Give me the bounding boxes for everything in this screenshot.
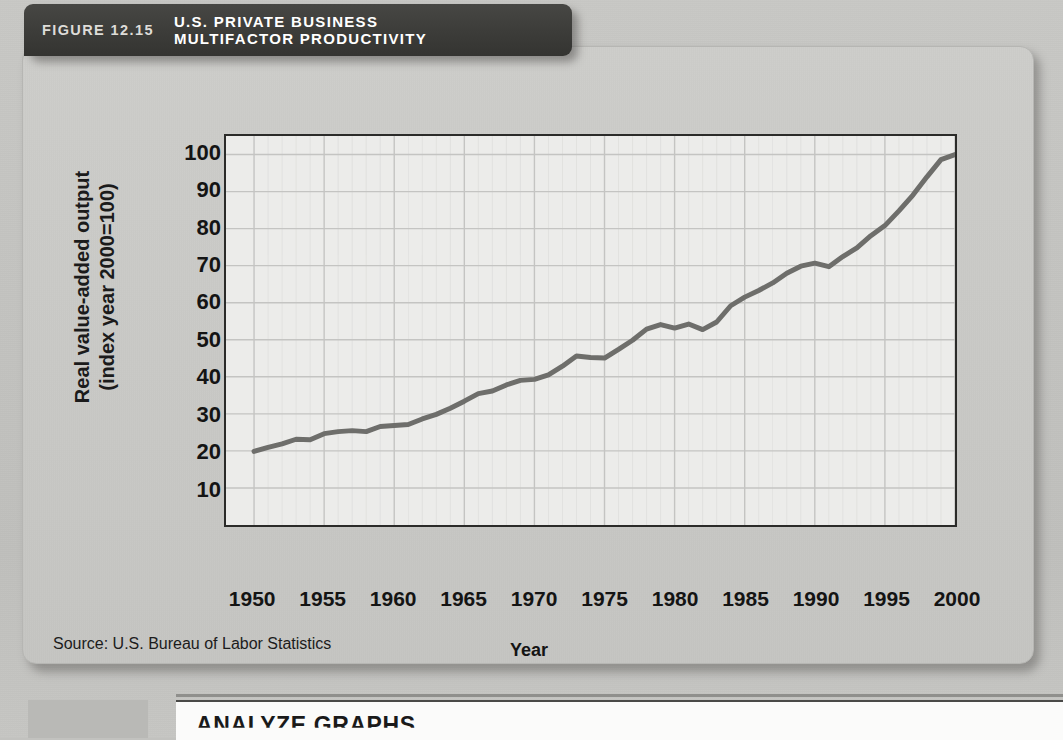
y-axis-tick-30: 30 bbox=[163, 402, 221, 428]
x-axis-tick-labels: 1950195519601965197019751980198519901995… bbox=[23, 587, 1034, 617]
y-axis-tick-labels: 100908070605040302010 bbox=[163, 47, 221, 664]
y-axis-tick-20: 20 bbox=[163, 439, 221, 465]
source-note: Source: U.S. Bureau of Labor Statistics bbox=[53, 635, 331, 653]
x-axis-tick-1950: 1950 bbox=[229, 587, 276, 611]
x-axis-tick-1975: 1975 bbox=[581, 587, 628, 611]
y-axis-tick-50: 50 bbox=[163, 327, 221, 353]
x-axis-tick-1980: 1980 bbox=[652, 587, 699, 611]
vertical-gridlines bbox=[254, 136, 955, 525]
x-axis-tick-2000: 2000 bbox=[934, 587, 981, 611]
figure-card: Real value-added output (index year 2000… bbox=[22, 46, 1034, 664]
y-axis-tick-80: 80 bbox=[163, 215, 221, 241]
figure-number: FIGURE 12.15 bbox=[42, 22, 154, 38]
y-axis-tick-90: 90 bbox=[163, 177, 221, 203]
figure-title: U.S. PRIVATE BUSINESS MULTIFACTOR PRODUC… bbox=[174, 13, 427, 47]
chart-container: Real value-added output (index year 2000… bbox=[23, 47, 1034, 664]
y-axis-tick-100: 100 bbox=[163, 140, 221, 166]
page-left-tab bbox=[28, 700, 148, 738]
figure-banner: FIGURE 12.15 U.S. PRIVATE BUSINESS MULTI… bbox=[24, 4, 572, 56]
y-axis-tick-60: 60 bbox=[163, 289, 221, 315]
x-axis-tick-1955: 1955 bbox=[299, 587, 346, 611]
x-axis-tick-1960: 1960 bbox=[370, 587, 417, 611]
y-axis-tick-40: 40 bbox=[163, 364, 221, 390]
x-axis-tick-1990: 1990 bbox=[793, 587, 840, 611]
y-axis-tick-10: 10 bbox=[163, 477, 221, 503]
x-axis-tick-1995: 1995 bbox=[863, 587, 910, 611]
x-axis-tick-1970: 1970 bbox=[511, 587, 558, 611]
y-axis-tick-70: 70 bbox=[163, 252, 221, 278]
x-axis-tick-1985: 1985 bbox=[722, 587, 769, 611]
plot-area bbox=[224, 134, 957, 527]
bottom-divider-rule bbox=[176, 694, 1063, 697]
y-axis-label: Real value-added output (index year 2000… bbox=[70, 137, 120, 437]
chart-svg bbox=[226, 136, 955, 525]
x-axis-tick-1965: 1965 bbox=[440, 587, 487, 611]
